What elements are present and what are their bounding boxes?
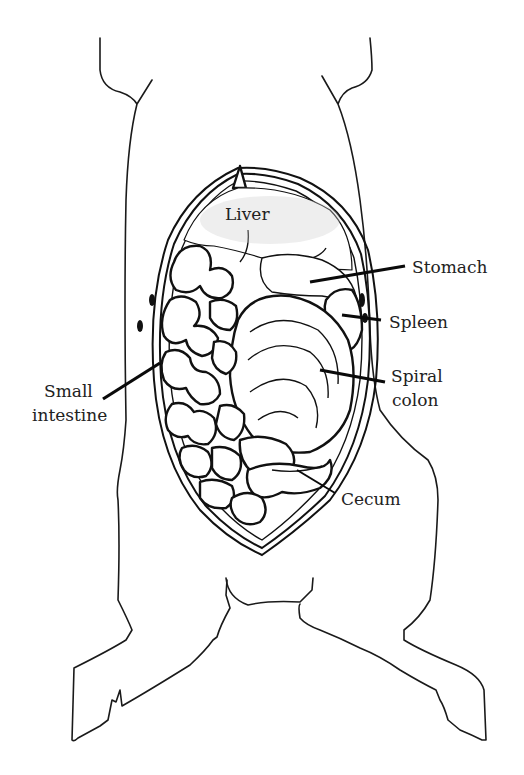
- leader-small-intestine: [103, 363, 160, 399]
- label-small-intestine-line1: Small: [44, 381, 93, 401]
- label-liver: Liver: [225, 204, 270, 224]
- label-stomach: Stomach: [412, 257, 487, 277]
- anatomical-figure: Liver Stomach Spleen Spiral colon Small …: [0, 0, 524, 775]
- wall-vessel-mark: [149, 294, 155, 306]
- label-spiral-colon-line1: Spiral: [391, 366, 443, 386]
- label-spiral-colon-line2: colon: [392, 390, 438, 410]
- label-cecum: Cecum: [341, 489, 401, 509]
- label-spleen: Spleen: [389, 312, 448, 332]
- label-small-intestine-line2: intestine: [32, 405, 107, 425]
